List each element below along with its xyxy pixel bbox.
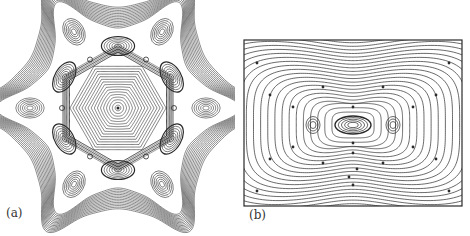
panel-b-label: (b): [249, 208, 266, 222]
panel-b-rect-contour: (b): [235, 0, 470, 236]
plot-frame: [244, 40, 462, 206]
panel-a-snowflake-contour: (a): [0, 0, 235, 236]
panel-a-label: (a): [6, 206, 23, 220]
snowflake-contour-plot: [0, 0, 235, 236]
rectangular-contour-plot: [235, 0, 470, 236]
